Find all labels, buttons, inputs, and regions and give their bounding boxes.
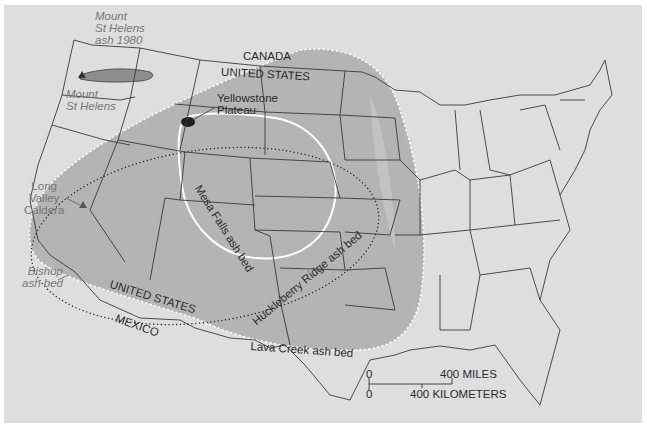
label-line: Bishop: [22, 265, 63, 277]
label-line: Mount: [66, 88, 116, 100]
label-line: Plateau: [217, 104, 278, 116]
map-graphics: [0, 0, 647, 426]
scale-miles-label: 400 MILES: [440, 368, 497, 380]
mt-st-helens-1980-ash-plume: [80, 69, 153, 82]
mt-st-helens-ash-1980-label: Mount St Helens ash 1980: [95, 10, 145, 46]
label-line: St Helens: [66, 100, 116, 112]
yellowstone-caldera-icon: [181, 117, 195, 127]
label-line: ash bed: [22, 277, 63, 289]
ash-bed-map: Mount St Helens ash 1980 Mount St Helens…: [0, 0, 647, 426]
label-line: Yellowstone: [217, 92, 278, 104]
label-line: ash 1980: [95, 34, 145, 46]
label-line: Valley: [24, 192, 64, 204]
canada-label: CANADA: [243, 50, 291, 62]
bishop-ash-bed-label: Bishop ash bed: [22, 265, 63, 289]
label-line: Long: [24, 180, 64, 192]
scale-miles-zero: 0: [366, 368, 372, 380]
label-line: Mount: [95, 10, 145, 22]
yellowstone-plateau-label: Yellowstone Plateau: [217, 92, 278, 116]
scale-km-label: 400 KILOMETERS: [410, 388, 507, 400]
long-valley-caldera-label: Long Valley Caldera: [24, 180, 64, 216]
scale-km-zero: 0: [366, 388, 372, 400]
mt-st-helens-label: Mount St Helens: [66, 88, 116, 112]
label-line: St Helens: [95, 22, 145, 34]
label-line: Caldera: [24, 204, 64, 216]
